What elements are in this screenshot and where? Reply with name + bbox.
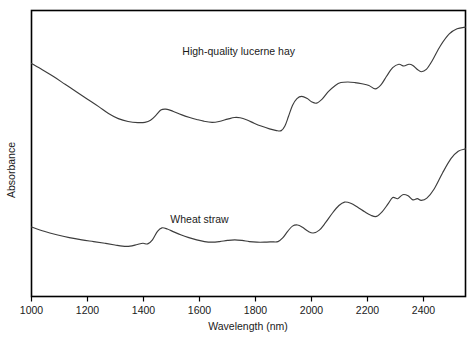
x-tick-label-1400: 1400	[132, 304, 156, 316]
x-tick-label-2200: 2200	[356, 304, 380, 316]
y-axis-title: Absorbance	[5, 142, 17, 198]
spectrum-line-lucerne-hay	[32, 27, 466, 131]
x-axis-tick-labels: 10001200140016001800200022002400	[20, 304, 436, 316]
x-axis-title: Wavelength (nm)	[208, 320, 288, 332]
x-tick-label-1000: 1000	[20, 304, 44, 316]
curve-label-wheat-straw: Wheat straw	[170, 213, 229, 225]
x-tick-label-1600: 1600	[188, 304, 212, 316]
spectra-plot: 10001200140016001800200022002400 Wavelen…	[0, 0, 472, 340]
x-tick-label-2000: 2000	[300, 304, 324, 316]
x-tick-label-1200: 1200	[76, 304, 100, 316]
curve-label-lucerne-hay: High-quality lucerne hay	[182, 45, 295, 57]
x-tick-label-2400: 2400	[412, 304, 436, 316]
x-tick-label-1800: 1800	[244, 304, 268, 316]
spectra-figure: 10001200140016001800200022002400 Wavelen…	[0, 0, 472, 340]
spectrum-line-wheat-straw	[32, 149, 466, 246]
